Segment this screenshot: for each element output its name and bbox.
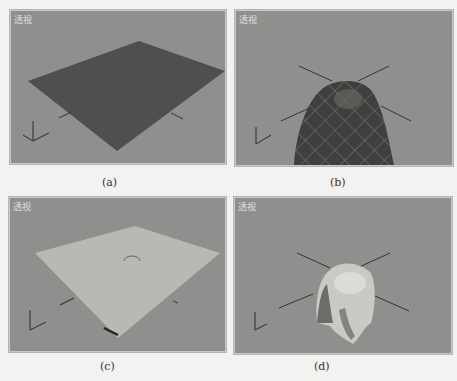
viewport-label: 透视: [14, 13, 31, 26]
viewport-panel-b: 透视: [235, 10, 453, 166]
caption-a: (a): [102, 176, 117, 189]
viewport-panel-c: 透视: [9, 197, 226, 352]
axis-gizmo-icon: [23, 121, 49, 141]
viewport-label: 透视: [13, 200, 30, 213]
cloth-dark-render: [236, 11, 452, 165]
viewport-panel-a: 透视: [10, 10, 226, 164]
cloth-light-render: [235, 198, 451, 353]
caption-c: (c): [100, 360, 115, 373]
viewport-panel-d: 透视: [234, 197, 452, 354]
viewport-label: 透视: [238, 200, 255, 213]
viewport-label: 透视: [239, 13, 256, 26]
plane-light-render: [10, 198, 225, 351]
axis-gizmo-icon: [30, 310, 46, 330]
axis-gizmo-icon: [256, 127, 271, 144]
caption-b: (b): [330, 176, 346, 189]
axis-gizmo-icon: [255, 312, 267, 330]
caption-d: (d): [314, 360, 330, 373]
plane-dark-render: [11, 11, 225, 163]
